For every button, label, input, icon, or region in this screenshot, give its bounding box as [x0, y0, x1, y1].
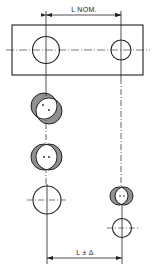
offset-misaligned-holes: [31, 93, 62, 124]
top-dimension-label: L NOM.: [71, 6, 97, 13]
lateral-misaligned-holes: [31, 144, 62, 170]
left-centerline: [46, 11, 47, 264]
bottom-dimension: L ± Δ: [47, 249, 122, 260]
bottom-dimension-label: L ± Δ: [76, 249, 94, 256]
technical-drawing: L NOM.: [0, 0, 152, 276]
right-centerline: [121, 11, 122, 264]
top-dimension: L NOM.: [46, 6, 121, 17]
right-hole-misaligned: [110, 187, 133, 205]
aligned-right-hole: [107, 219, 138, 238]
plate-with-two-holes: [6, 25, 150, 75]
aligned-left-hole: [27, 186, 66, 214]
